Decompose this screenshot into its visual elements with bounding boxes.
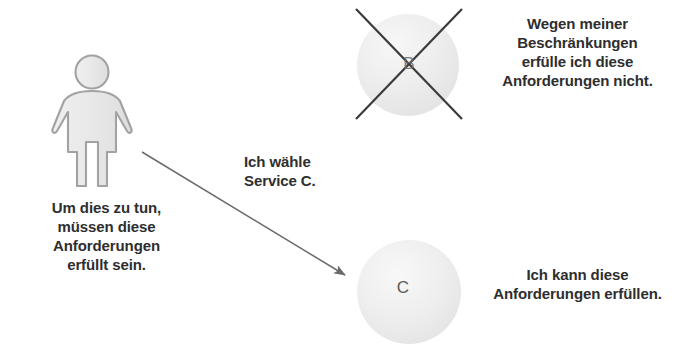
service-c-letter: C: [386, 278, 420, 298]
choice-arrow-label: Ich wähle Service C.: [224, 152, 384, 190]
requirements-caption: Um dies zu tun, müssen diese Anforderung…: [4, 198, 209, 274]
service-b-letter: B: [392, 54, 426, 74]
service-c-caption: Ich kann diese Anforderungen erfüllen.: [470, 265, 685, 303]
diagram-canvas: B C Um dies zu tun, müssen diese Anforde…: [0, 0, 689, 351]
person-pictogram: [52, 56, 131, 187]
service-b-caption: Wegen meiner Beschränkungen erfülle ich …: [470, 14, 685, 90]
